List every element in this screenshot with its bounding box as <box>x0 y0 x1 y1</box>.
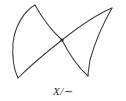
caption-text: X/∼ <box>53 85 73 97</box>
crossing-node-dot <box>60 38 63 41</box>
left-lobe-lower-curve <box>18 40 62 78</box>
quotient-space-figure: X/∼ <box>0 0 126 101</box>
caption-variable: X <box>53 85 60 97</box>
right-lobe-outer-curve <box>88 8 112 76</box>
right-lobe-upper-curve <box>62 8 112 40</box>
left-lobe-inner-curve <box>35 5 62 40</box>
left-lobe-outer-curve <box>13 5 35 78</box>
figure-caption: X/∼ <box>0 82 126 98</box>
caption-equivalence-relation: ∼ <box>64 85 73 97</box>
right-lobe-lower-curve <box>62 40 88 76</box>
